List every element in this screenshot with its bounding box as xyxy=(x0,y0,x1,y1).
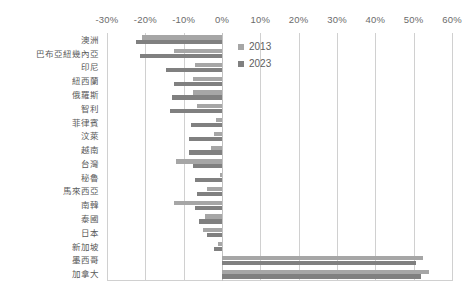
bar xyxy=(136,40,222,44)
category-label: 俄羅斯 xyxy=(72,91,99,100)
bar xyxy=(172,95,222,99)
bar xyxy=(193,90,222,94)
category-label: 墨西哥 xyxy=(72,256,99,265)
gridline-50 xyxy=(414,33,415,281)
bar xyxy=(193,77,222,81)
bar xyxy=(214,247,222,251)
gridline-20 xyxy=(299,33,300,281)
bar xyxy=(140,54,222,58)
bar xyxy=(199,219,222,223)
bar xyxy=(189,150,222,154)
category-label: 新加坡 xyxy=(72,242,99,251)
x-tick-label: 40% xyxy=(366,14,386,25)
x-tick-label: 0% xyxy=(215,14,229,25)
zero-axis-line xyxy=(222,33,223,281)
category-label: 巴布亞紐幾內亞 xyxy=(36,49,99,58)
legend-label: 2023 xyxy=(249,59,271,69)
x-tick-label: 20% xyxy=(289,14,309,25)
gridline--30 xyxy=(107,33,108,281)
bar xyxy=(222,274,421,278)
bar xyxy=(174,82,222,86)
category-label: 汶萊 xyxy=(81,132,99,141)
x-tick-label: 60% xyxy=(442,14,462,25)
legend-item[interactable]: 2023 xyxy=(238,59,271,69)
gridline--20 xyxy=(145,33,146,281)
category-label: 越南 xyxy=(81,146,99,155)
bar xyxy=(189,137,222,141)
bar xyxy=(216,118,222,122)
legend-swatch-icon xyxy=(238,61,244,67)
bar xyxy=(220,173,222,177)
category-label: 馬來西亞 xyxy=(63,187,99,196)
bar xyxy=(211,146,223,150)
bar xyxy=(142,35,223,39)
bar xyxy=(191,123,222,127)
bar xyxy=(174,201,222,205)
bar xyxy=(207,187,222,191)
legend-label: 2013 xyxy=(249,42,271,52)
legend-swatch-icon xyxy=(238,44,244,50)
bar xyxy=(174,49,222,53)
bar xyxy=(193,164,222,168)
category-axis-labels: 澳洲巴布亞紐幾內亞印尼紐西蘭俄羅斯智利菲律賓汶萊越南台灣秘魯馬來西亞南韓泰國日本… xyxy=(0,33,103,281)
bar xyxy=(166,68,222,72)
category-label: 菲律賓 xyxy=(72,118,99,127)
legend-item[interactable]: 2013 xyxy=(238,42,271,52)
x-tick-label: 50% xyxy=(404,14,424,25)
bar xyxy=(214,132,222,136)
x-axis-tick-labels: -30%-20%-10%0%10%20%30%40%50%60% xyxy=(0,14,452,32)
x-tick-label: -20% xyxy=(134,14,157,25)
category-label: 澳洲 xyxy=(81,36,99,45)
category-label: 南韓 xyxy=(81,201,99,210)
x-tick-label: 10% xyxy=(251,14,271,25)
gridline-30 xyxy=(337,33,338,281)
bar xyxy=(207,233,222,237)
bar xyxy=(195,178,222,182)
gridline-60 xyxy=(452,33,453,281)
category-label: 泰國 xyxy=(81,215,99,224)
bar xyxy=(222,256,423,260)
bar xyxy=(197,192,222,196)
category-label: 加拿大 xyxy=(72,270,99,279)
category-label: 台灣 xyxy=(81,160,99,169)
category-label: 印尼 xyxy=(81,63,99,72)
bar xyxy=(205,214,222,218)
plot-area xyxy=(107,33,452,281)
category-label: 紐西蘭 xyxy=(72,77,99,86)
plot-baseline xyxy=(107,280,452,281)
bar xyxy=(176,159,222,163)
bar xyxy=(195,63,222,67)
bar xyxy=(222,261,416,265)
chart-legend: 20132023 xyxy=(238,42,271,76)
x-tick-label: -30% xyxy=(96,14,119,25)
category-label: 智利 xyxy=(81,105,99,114)
x-tick-label: 30% xyxy=(327,14,347,25)
gridline-40 xyxy=(375,33,376,281)
category-label: 日本 xyxy=(81,229,99,238)
x-tick-label: -10% xyxy=(172,14,195,25)
bar xyxy=(195,206,222,210)
category-label: 秘魯 xyxy=(81,173,99,182)
bar xyxy=(170,109,222,113)
bar xyxy=(222,270,429,274)
bar xyxy=(203,228,222,232)
bar xyxy=(197,104,222,108)
bar xyxy=(218,242,222,246)
